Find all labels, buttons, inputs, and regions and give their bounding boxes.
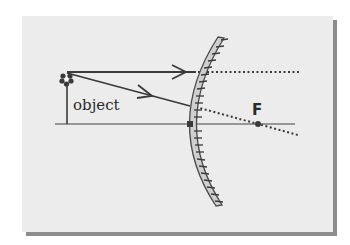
mirror-vertex-point: [187, 121, 193, 127]
focal-point: [255, 121, 261, 127]
object-label: object: [73, 96, 120, 114]
ray-diagram: object: [0, 0, 350, 245]
convex-mirror: [189, 37, 228, 206]
object-flower-icon: [59, 73, 73, 86]
ray-toward-f-extension: [196, 107, 298, 135]
focal-point-label: F: [252, 101, 262, 119]
